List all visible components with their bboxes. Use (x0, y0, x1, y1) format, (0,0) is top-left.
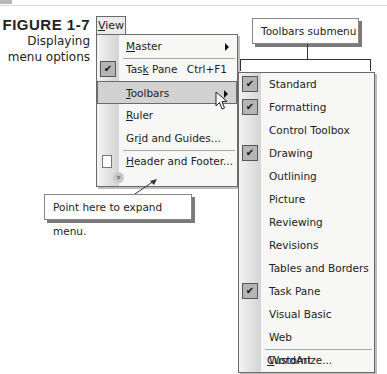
checkmark-icon: ✔ (100, 61, 116, 77)
submenu-item-web[interactable]: Web (239, 326, 374, 349)
label-rest: aster (135, 40, 162, 52)
submenu-item-task-pane[interactable]: ✔ Task Pane (239, 280, 374, 303)
submenu-item-picture[interactable]: Picture (239, 188, 374, 211)
submenu-item-visual-basic[interactable]: Visual Basic (239, 303, 374, 326)
mnemonic: i (138, 132, 141, 144)
checkmark-icon: ✔ (242, 99, 258, 115)
callout-toolbars-submenu: Toolbars submenu (252, 18, 359, 44)
submenu-item-customize[interactable]: Customize... (238, 349, 375, 371)
menu-view[interactable]: View (96, 16, 126, 34)
mnemonic: H (126, 155, 134, 167)
checkmark-icon: ✔ (242, 283, 258, 299)
submenu-item-tables-and-borders[interactable]: Tables and Borders (239, 257, 374, 280)
mnemonic: k (143, 63, 149, 75)
menu-view-rest: iew (105, 19, 124, 32)
submenu-item-outlining[interactable]: Outlining (239, 165, 374, 188)
mnemonic: T (126, 87, 131, 99)
callout-leader-line (307, 44, 308, 60)
submenu-arrow-icon (225, 43, 229, 51)
page-tab-marker (0, 0, 12, 4)
menu-item-master[interactable]: Master (97, 35, 237, 58)
callout-bracket-right (370, 59, 371, 71)
figure-caption-line-1: Displaying (0, 33, 90, 49)
callout-bracket-left (240, 59, 241, 71)
toolbars-submenu: ✔ Standard ✔ Formatting Control Toolbox … (238, 72, 375, 373)
expand-menu-chevron-icon[interactable]: » (113, 172, 124, 183)
mnemonic: R (126, 109, 133, 121)
callout-expand-menu: Point here to expand menu. (44, 194, 192, 220)
menu-item-grid-and-guides[interactable]: Grid and Guides... (97, 127, 237, 150)
checkmark-icon: ✔ (242, 76, 258, 92)
mnemonic: C (267, 354, 274, 366)
submenu-item-standard[interactable]: ✔ Standard (239, 73, 374, 96)
checkmark-icon: ✔ (242, 145, 258, 161)
submenu-item-formatting[interactable]: ✔ Formatting (239, 96, 374, 119)
menu-item-task-pane[interactable]: ✔ Task Pane Ctrl+F1 (97, 58, 237, 81)
submenu-item-control-toolbox[interactable]: Control Toolbox (239, 119, 374, 142)
page-top-rule (0, 0, 387, 6)
mouse-pointer-icon (215, 91, 229, 111)
figure-number: FIGURE 1-7 (2, 16, 90, 33)
submenu-item-revisions[interactable]: Revisions (239, 234, 374, 257)
menu-item-header-and-footer[interactable]: Header and Footer... (97, 150, 237, 173)
mnemonic: M (126, 40, 135, 52)
shortcut-label: Ctrl+F1 (187, 58, 227, 81)
figure-caption: Displaying menu options (0, 33, 90, 65)
submenu-item-drawing[interactable]: ✔ Drawing (239, 142, 374, 165)
figure-caption-line-2: menu options (0, 49, 90, 65)
document-icon (102, 155, 112, 168)
callout-bracket-line (240, 59, 371, 60)
submenu-item-reviewing[interactable]: Reviewing (239, 211, 374, 234)
